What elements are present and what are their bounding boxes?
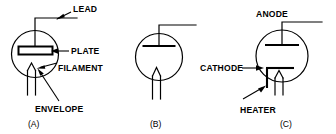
tube-a-filament-icon — [28, 63, 36, 71]
label-plate: PLATE — [71, 46, 100, 56]
tube-c-anode-lead-wire-icon — [282, 22, 322, 45]
tube-b-filament-icon — [153, 68, 161, 77]
heater-arrow-icon — [258, 86, 266, 93]
tube-a-plate-icon — [19, 47, 53, 55]
panel-caption-b: (B) — [150, 119, 162, 129]
label-envelope: ENVELOPE — [35, 104, 83, 114]
vacuum-tube-figure: LEAD PLATE FILAMENT ENVELOPE (A) — [0, 0, 336, 134]
filament-arrow-icon — [37, 65, 46, 69]
label-heater: HEATER — [240, 105, 276, 115]
panel-caption-c: (C) — [280, 119, 292, 129]
lead-arrow-icon — [56, 14, 65, 20]
label-cathode: CATHODE — [200, 63, 243, 73]
panel-b-group: (B) — [136, 25, 197, 129]
panel-caption-a: (A) — [28, 119, 40, 129]
tube-c-heater-icon — [275, 71, 283, 79]
label-anode: ANODE — [256, 9, 288, 19]
label-filament: FILAMENT — [58, 63, 104, 73]
envelope-leader-line — [40, 72, 59, 101]
panel-c-group: ANODE CATHODE HEATER (C) — [200, 9, 322, 129]
label-lead: LEAD — [73, 4, 97, 14]
diagram-canvas: LEAD PLATE FILAMENT ENVELOPE (A) — [0, 0, 336, 134]
panel-a-group: LEAD PLATE FILAMENT ENVELOPE (A) — [12, 4, 104, 129]
envelope-arrow-icon — [38, 69, 44, 76]
